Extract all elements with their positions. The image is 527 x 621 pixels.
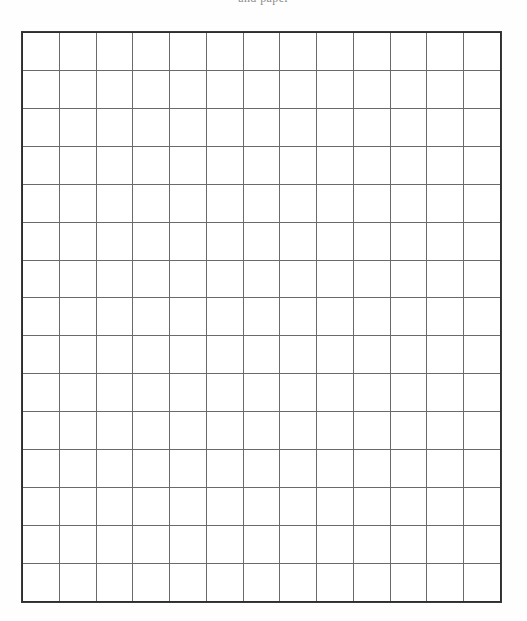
grid-cell[interactable] [464, 146, 501, 184]
grid-cell[interactable] [280, 108, 317, 146]
grid-cell[interactable] [427, 70, 464, 108]
grid-cell[interactable] [390, 33, 427, 71]
grid-cell[interactable] [353, 108, 390, 146]
grid-cell[interactable] [317, 525, 354, 563]
grid-cell[interactable] [170, 184, 207, 222]
grid-cell[interactable] [353, 374, 390, 412]
grid-cell[interactable] [170, 108, 207, 146]
grid-cell[interactable] [390, 222, 427, 260]
grid-cell[interactable] [427, 336, 464, 374]
grid-cell[interactable] [280, 525, 317, 563]
grid-cell[interactable] [464, 222, 501, 260]
grid-cell[interactable] [353, 563, 390, 601]
grid-cell[interactable] [23, 488, 60, 526]
grid-cell[interactable] [133, 336, 170, 374]
grid-cell[interactable] [243, 374, 280, 412]
grid-cell[interactable] [243, 108, 280, 146]
grid-cell[interactable] [427, 412, 464, 450]
grid-cell[interactable] [317, 108, 354, 146]
grid-cell[interactable] [206, 450, 243, 488]
grid-cell[interactable] [206, 108, 243, 146]
grid-cell[interactable] [353, 184, 390, 222]
grid-cell[interactable] [427, 374, 464, 412]
grid-cell[interactable] [280, 412, 317, 450]
grid-cell[interactable] [280, 298, 317, 336]
grid-cell[interactable] [427, 260, 464, 298]
grid-cell[interactable] [280, 222, 317, 260]
grid-cell[interactable] [170, 146, 207, 184]
grid-cell[interactable] [133, 488, 170, 526]
grid-cell[interactable] [317, 336, 354, 374]
grid-cell[interactable] [390, 108, 427, 146]
grid-cell[interactable] [23, 298, 60, 336]
grid-cell[interactable] [353, 450, 390, 488]
grid-cell[interactable] [170, 33, 207, 71]
grid-cell[interactable] [243, 184, 280, 222]
grid-cell[interactable] [59, 70, 96, 108]
grid-cell[interactable] [464, 260, 501, 298]
grid-table[interactable] [22, 32, 501, 602]
grid-cell[interactable] [96, 563, 133, 601]
grid-cell[interactable] [59, 33, 96, 71]
grid-cell[interactable] [317, 33, 354, 71]
grid-cell[interactable] [23, 33, 60, 71]
grid-cell[interactable] [170, 525, 207, 563]
grid-cell[interactable] [59, 184, 96, 222]
grid-cell[interactable] [464, 563, 501, 601]
grid-cell[interactable] [170, 488, 207, 526]
grid-cell[interactable] [464, 374, 501, 412]
grid-cell[interactable] [170, 298, 207, 336]
grid-cell[interactable] [59, 146, 96, 184]
grid-cell[interactable] [59, 336, 96, 374]
grid-cell[interactable] [280, 146, 317, 184]
grid-cell[interactable] [23, 336, 60, 374]
grid-cell[interactable] [133, 184, 170, 222]
grid-cell[interactable] [464, 525, 501, 563]
grid-cell[interactable] [317, 450, 354, 488]
grid-cell[interactable] [133, 260, 170, 298]
grid-cell[interactable] [317, 222, 354, 260]
grid-cell[interactable] [390, 146, 427, 184]
grid-cell[interactable] [243, 260, 280, 298]
grid-cell[interactable] [427, 563, 464, 601]
grid-cell[interactable] [96, 412, 133, 450]
grid-cell[interactable] [464, 108, 501, 146]
grid-cell[interactable] [23, 184, 60, 222]
grid-cell[interactable] [353, 146, 390, 184]
grid-cell[interactable] [390, 298, 427, 336]
grid-cell[interactable] [280, 184, 317, 222]
grid-cell[interactable] [96, 70, 133, 108]
grid-cell[interactable] [59, 412, 96, 450]
grid-cell[interactable] [170, 222, 207, 260]
grid-cell[interactable] [133, 108, 170, 146]
grid-cell[interactable] [464, 450, 501, 488]
grid-cell[interactable] [243, 70, 280, 108]
grid-cell[interactable] [23, 412, 60, 450]
grid-cell[interactable] [59, 222, 96, 260]
grid-cell[interactable] [170, 336, 207, 374]
grid-cell[interactable] [133, 146, 170, 184]
grid-cell[interactable] [133, 525, 170, 563]
grid-cell[interactable] [280, 336, 317, 374]
grid-cell[interactable] [390, 184, 427, 222]
grid-cell[interactable] [206, 146, 243, 184]
grid-cell[interactable] [390, 412, 427, 450]
grid-cell[interactable] [59, 525, 96, 563]
grid-cell[interactable] [427, 33, 464, 71]
grid-cell[interactable] [280, 70, 317, 108]
grid-cell[interactable] [96, 488, 133, 526]
grid-cell[interactable] [427, 298, 464, 336]
grid-cell[interactable] [243, 336, 280, 374]
grid-cell[interactable] [96, 450, 133, 488]
grid-cell[interactable] [133, 70, 170, 108]
grid-cell[interactable] [280, 450, 317, 488]
grid-cell[interactable] [59, 108, 96, 146]
grid-cell[interactable] [133, 374, 170, 412]
grid-cell[interactable] [243, 563, 280, 601]
grid-cell[interactable] [133, 222, 170, 260]
grid-cell[interactable] [427, 184, 464, 222]
grid-cell[interactable] [96, 525, 133, 563]
grid-cell[interactable] [59, 260, 96, 298]
grid-cell[interactable] [59, 298, 96, 336]
grid-cell[interactable] [317, 298, 354, 336]
